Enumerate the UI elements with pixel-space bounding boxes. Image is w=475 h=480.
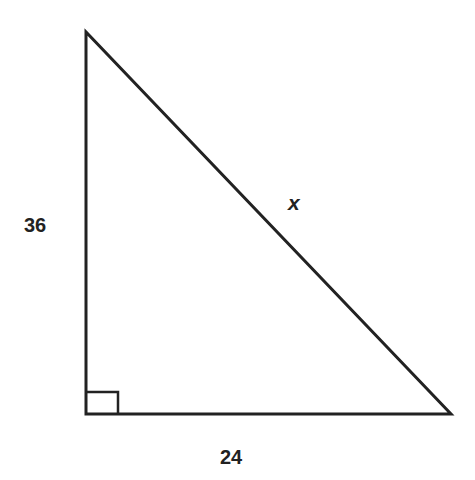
vertical-leg-label: 36 <box>24 214 46 236</box>
hypotenuse-label: x <box>287 191 301 214</box>
triangle-diagram: 36 x 24 <box>0 0 475 480</box>
right-angle-marker <box>86 392 118 414</box>
right-triangle <box>86 32 451 414</box>
horizontal-leg-label: 24 <box>220 446 243 468</box>
